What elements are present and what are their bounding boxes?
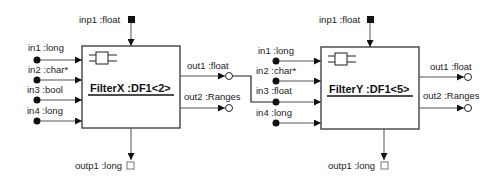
filtery-in4-port[interactable] — [273, 120, 280, 127]
filterx-in2-port[interactable] — [34, 77, 41, 84]
block-filterx[interactable]: FilterX :DF1<2> inp1 :float outp1 :long … — [27, 14, 241, 171]
filterx-in1-label: in1 :long — [28, 42, 64, 53]
filterx-out2-label: out2 :Ranges — [184, 91, 241, 102]
filterx-in2-label: in2 :char* — [28, 64, 68, 75]
filterx-inp1-label: inp1 :float — [79, 14, 121, 25]
filterx-in4-label: in4 :long — [27, 105, 63, 116]
filtery-inp1-port[interactable] — [367, 16, 374, 23]
filterx-title: FilterX :DF1<2> — [90, 82, 171, 94]
filtery-outp1-port[interactable] — [381, 162, 388, 169]
filtery-out2-label: out2 :Ranges — [423, 90, 480, 101]
filterx-in1-port[interactable] — [34, 57, 41, 64]
filtery-outp1-label: outp1 :long — [328, 160, 375, 171]
filtery-in3-label: in3 :float — [256, 85, 292, 96]
filtery-out2-port[interactable] — [465, 105, 472, 112]
filterx-inp1-port[interactable] — [128, 16, 135, 23]
filtery-in1-label: in1 :long — [258, 45, 294, 56]
filtery-out1-port[interactable] — [465, 74, 472, 81]
filtery-inp1-label: inp1 :float — [319, 14, 361, 25]
filtery-in4-label: in4 :long — [256, 107, 292, 118]
filterx-out2-port[interactable] — [226, 105, 233, 112]
filterx-out1-label: out1 :float — [187, 60, 229, 71]
filtery-out1-label: out1 :float — [430, 61, 472, 72]
filterx-in3-label: in3 :bool — [27, 84, 63, 95]
block-filtery[interactable]: FilterY :DF1<5> inp1 :float outp1 :long … — [256, 14, 480, 171]
filtery-in2-port[interactable] — [273, 78, 280, 85]
filterx-in4-port[interactable] — [34, 118, 41, 125]
filtery-in3-port[interactable] — [273, 99, 280, 106]
filterx-outp1-port[interactable] — [127, 162, 134, 169]
filtery-in1-port[interactable] — [273, 58, 280, 65]
filterx-in3-port[interactable] — [34, 97, 41, 104]
filtery-in2-label: in2 :char* — [256, 65, 296, 76]
filtery-title: FilterY :DF1<5> — [329, 83, 410, 95]
filterx-out1-port[interactable] — [226, 73, 233, 80]
filterx-outp1-label: outp1 :long — [75, 160, 122, 171]
